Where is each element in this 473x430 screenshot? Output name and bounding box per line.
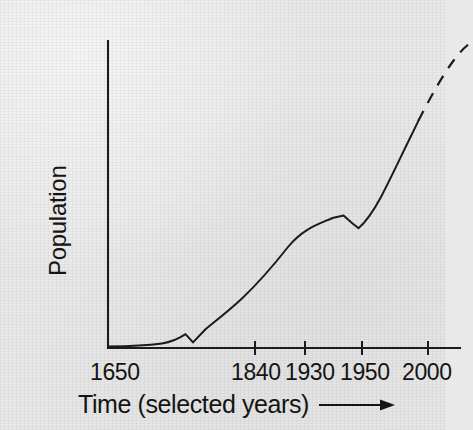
- x-tick-label-1930: 1930: [285, 361, 335, 384]
- x-tick-label-1950: 1950: [340, 361, 390, 384]
- x-tick-label-2000: 2000: [402, 361, 452, 384]
- population-curve-solid: [109, 121, 419, 347]
- right-arrow-icon: [318, 396, 396, 414]
- x-tick-label-1650: 1650: [90, 361, 140, 384]
- population-growth-chart: Population 1650 1840 1930 1950 2000 Time…: [40, 16, 405, 414]
- x-tick-label-1840: 1840: [231, 361, 281, 384]
- y-axis-title: Population: [46, 116, 70, 276]
- x-axis-title-row: Time (selected years): [78, 392, 396, 417]
- population-curve-dashed-projection: [419, 42, 473, 121]
- x-axis-title: Time (selected years): [78, 392, 309, 417]
